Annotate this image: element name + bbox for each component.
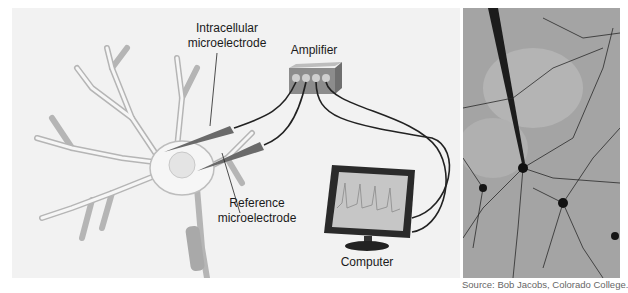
amplifier-icon bbox=[289, 62, 342, 94]
image-source-caption: Source: Bob Jacobs, Colorado College. bbox=[462, 279, 628, 290]
micrograph-photo bbox=[463, 8, 620, 278]
label-intracellular-microelectrode: Intracellular microelectrode bbox=[187, 21, 267, 51]
label-computer: Computer bbox=[337, 255, 397, 270]
label-line: microelectrode bbox=[212, 211, 302, 226]
label-reference-microelectrode: Reference microelectrode bbox=[212, 196, 302, 226]
label-line: Reference bbox=[212, 196, 302, 211]
computer-monitor-icon bbox=[324, 165, 415, 251]
label-line: microelectrode bbox=[187, 36, 267, 51]
label-amplifier: Amplifier bbox=[284, 43, 344, 58]
illustration-panel: Intracellular microelectrode Amplifier R… bbox=[12, 8, 460, 278]
label-line: Intracellular bbox=[187, 21, 267, 36]
neuron-micrograph-image bbox=[463, 8, 620, 278]
